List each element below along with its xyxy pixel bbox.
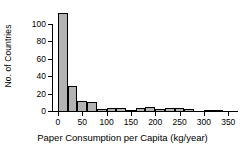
histogram-bar — [77, 101, 87, 112]
histogram-bar — [58, 13, 68, 112]
histogram-figure: No. of Countries 020406080100 0501001502… — [0, 0, 245, 160]
y-axis-label: No. of Countries — [0, 0, 16, 112]
x-axis-tick — [228, 112, 229, 116]
y-axis-tick-label: 60 — [16, 54, 46, 63]
y-axis-tick — [48, 94, 52, 95]
x-axis-tick — [107, 112, 108, 116]
x-axis-tick — [82, 112, 83, 116]
y-axis-tick — [48, 24, 52, 25]
x-axis-tick-label: 350 — [221, 118, 235, 127]
x-axis-tick-label: 50 — [77, 118, 86, 127]
histogram-bar — [107, 108, 117, 112]
x-axis-tick — [204, 112, 205, 116]
y-axis-tick — [48, 111, 52, 112]
x-axis-tick-label: 100 — [99, 118, 113, 127]
histogram-bar — [116, 108, 126, 112]
y-axis-tick — [48, 41, 52, 42]
x-axis-tick — [155, 112, 156, 116]
x-axis-label: Paper Consumption per Capita (kg/year) — [0, 132, 245, 143]
x-axis-tick-labels: 050100150200250300350 — [52, 118, 242, 130]
y-axis-tick-label: 100 — [16, 19, 46, 28]
histogram-bar — [126, 110, 136, 112]
y-axis-tick — [48, 76, 52, 77]
y-axis-tick-label: 80 — [16, 37, 46, 46]
histogram-bar — [214, 110, 224, 112]
histogram-bar — [145, 107, 155, 112]
histogram-bar — [97, 109, 107, 112]
x-axis-tick — [131, 112, 132, 116]
y-axis-tick-label: 0 — [16, 107, 46, 116]
plot-area — [52, 8, 238, 111]
y-axis-tick — [48, 59, 52, 60]
y-axis-tick-labels: 020406080100 — [16, 0, 46, 112]
histogram-bar — [184, 109, 194, 112]
x-axis-tick-label: 150 — [124, 118, 138, 127]
x-axis-tick-label: 0 — [55, 118, 60, 127]
histogram-bar — [68, 86, 78, 112]
histogram-bar — [136, 108, 146, 112]
x-axis-tick — [58, 112, 59, 116]
x-axis-tick — [180, 112, 181, 116]
y-axis-spine — [52, 24, 53, 112]
y-axis-tick-label: 20 — [16, 89, 46, 98]
histogram-bar — [165, 108, 175, 112]
histogram-bar — [204, 110, 214, 112]
y-axis-label-text: No. of Countries — [3, 24, 13, 87]
x-axis-tick-label: 250 — [172, 118, 186, 127]
x-axis-tick-label: 300 — [197, 118, 211, 127]
x-axis-tick-label: 200 — [148, 118, 162, 127]
histogram-bar — [155, 109, 165, 112]
histogram-bar — [175, 108, 185, 112]
histogram-bar — [87, 102, 97, 112]
y-axis-tick-label: 40 — [16, 72, 46, 81]
